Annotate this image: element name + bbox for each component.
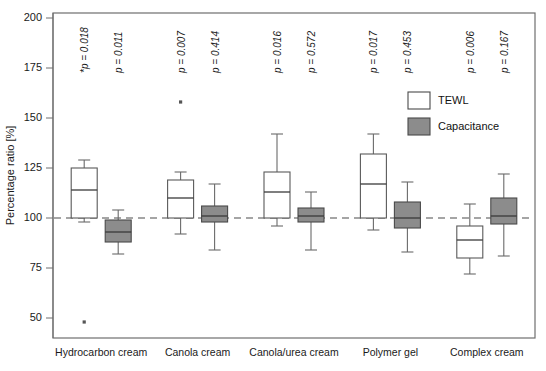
box xyxy=(105,220,131,242)
p-value-label-capacitance-2: p = 0.572 xyxy=(306,31,317,74)
box xyxy=(168,180,194,218)
boxplot-capacitance-1 xyxy=(202,184,228,250)
y-tick-label-200: 200 xyxy=(24,11,42,23)
box xyxy=(394,202,420,228)
box xyxy=(298,208,324,222)
p-value-label-capacitance-4: p = 0.167 xyxy=(499,31,510,74)
y-tick-label-100: 100 xyxy=(24,211,42,223)
plot-frame xyxy=(53,13,535,338)
y-tick-label-150: 150 xyxy=(24,111,42,123)
x-axis-label-2: Canola/urea cream xyxy=(249,346,339,358)
outlier-point-0 xyxy=(83,320,86,323)
boxplot-tewl-3 xyxy=(360,134,386,230)
p-value-label-capacitance-3: p = 0.453 xyxy=(402,31,413,74)
box-group-4 xyxy=(457,174,517,274)
chart-canvas: Percentage ratio [%]5075100125150175200*… xyxy=(0,0,546,371)
x-axis-label-4: Complex cream xyxy=(450,346,524,358)
box-group-1 xyxy=(168,100,228,250)
boxplot-tewl-4 xyxy=(457,204,483,274)
legend-swatch-capacitance xyxy=(408,118,430,135)
box xyxy=(457,226,483,258)
x-axis-label-1: Canola cream xyxy=(165,346,231,358)
boxplot-capacitance-4 xyxy=(491,174,517,256)
p-value-label-tewl-0: *p = 0.018 xyxy=(79,27,90,73)
box xyxy=(202,206,228,222)
x-axis-label-0: Hydrocarbon cream xyxy=(55,346,147,358)
y-tick-label-75: 75 xyxy=(30,261,42,273)
boxplot-capacitance-2 xyxy=(298,192,324,250)
boxplot-capacitance-3 xyxy=(394,182,420,252)
boxplot-chart: Percentage ratio [%]5075100125150175200*… xyxy=(0,0,546,371)
boxplot-tewl-0 xyxy=(71,160,97,324)
boxplot-tewl-1 xyxy=(168,100,194,234)
box-group-0 xyxy=(71,160,131,324)
y-tick-label-125: 125 xyxy=(24,161,42,173)
p-value-label-capacitance-0: p = 0.011 xyxy=(113,32,124,74)
p-value-label-tewl-2: p = 0.016 xyxy=(272,31,283,74)
boxplot-tewl-2 xyxy=(264,134,290,226)
box xyxy=(264,172,290,218)
box xyxy=(491,198,517,224)
box xyxy=(360,154,386,218)
x-axis-label-3: Polymer gel xyxy=(363,346,418,358)
y-axis-title: Percentage ratio [%] xyxy=(4,126,16,226)
box-group-3 xyxy=(360,134,420,252)
legend-label-capacitance: Capacitance xyxy=(438,120,499,132)
box-group-2 xyxy=(264,134,324,250)
outlier-point-0 xyxy=(179,100,182,103)
p-value-label-tewl-4: p = 0.006 xyxy=(465,31,476,74)
legend-swatch-tewl xyxy=(408,92,430,109)
boxplot-capacitance-0 xyxy=(105,210,131,254)
p-value-label-capacitance-1: p = 0.414 xyxy=(210,31,221,74)
box xyxy=(71,168,97,218)
y-tick-label-175: 175 xyxy=(24,61,42,73)
p-value-label-tewl-3: p = 0.017 xyxy=(368,31,379,74)
y-tick-label-50: 50 xyxy=(30,311,42,323)
p-value-label-tewl-1: p = 0.007 xyxy=(176,31,187,74)
legend-label-tewl: TEWL xyxy=(438,94,469,106)
